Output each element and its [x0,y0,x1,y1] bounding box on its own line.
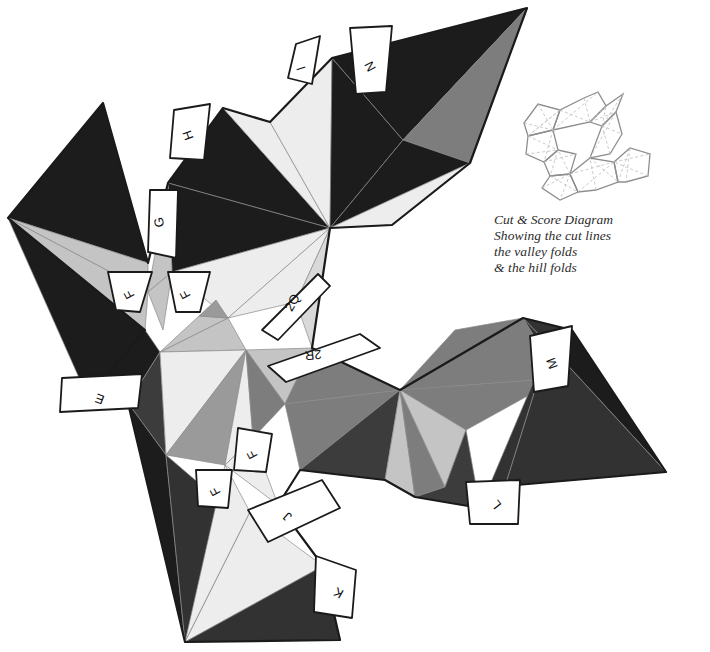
legend-label-cut: Showing the cut lines [494,228,611,244]
legend-row-hill: & the hill folds [494,260,706,276]
glue-tab [350,26,392,94]
mini-net-preview [498,88,678,206]
legend-title: Cut & Score Diagram [494,212,613,228]
diagram-canvas: INHGFFE2Q2RFFJKML Cut & [0,0,710,652]
legend-row-cut: Showing the cut lines [494,228,706,244]
legend-row-valley: the valley folds [494,244,706,260]
legend: Cut & Score Diagram Showing the cut line… [494,212,706,276]
legend-title-row: Cut & Score Diagram [494,212,706,228]
glue-tab [314,556,356,618]
tab-label-2r: 2R [304,347,322,364]
glue-tab [466,480,520,524]
legend-label-valley: the valley folds [494,244,577,260]
legend-label-hill: & the hill folds [494,260,577,276]
